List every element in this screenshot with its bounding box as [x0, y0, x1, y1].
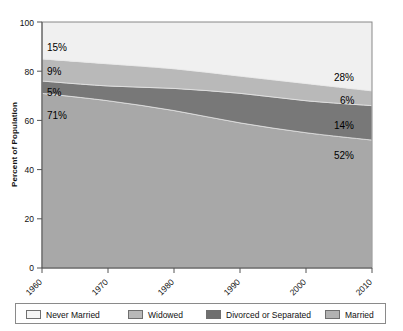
label-right-married: 52%: [334, 150, 354, 161]
area-series-group: [42, 22, 372, 268]
legend-label-married: Married: [345, 310, 374, 320]
stacked-area-chart: Percent of Population 100 80 60 40 20 0: [0, 0, 403, 331]
legend-swatch-married: [325, 310, 340, 319]
legend: Never Married Widowed Divorced or Separa…: [15, 303, 386, 324]
label-right-widowed: 6%: [340, 95, 354, 106]
legend-item-never-married[interactable]: Never Married: [26, 308, 100, 321]
legend-label-widowed: Widowed: [148, 310, 183, 320]
legend-item-married[interactable]: Married: [325, 308, 374, 321]
legend-item-divorced[interactable]: Divorced or Separated: [206, 308, 311, 321]
x-axis: [42, 268, 372, 273]
legend-label-divorced: Divorced or Separated: [226, 310, 311, 320]
label-right-never-married: 28%: [334, 72, 354, 83]
label-right-divorced: 14%: [334, 120, 354, 131]
label-left-widowed: 9%: [47, 66, 61, 77]
legend-item-widowed[interactable]: Widowed: [128, 308, 183, 321]
legend-swatch-divorced: [206, 310, 221, 319]
label-left-never-married: 15%: [47, 42, 67, 53]
y-axis: [37, 22, 42, 268]
label-left-divorced: 5%: [47, 87, 61, 98]
legend-swatch-never-married: [26, 310, 41, 319]
legend-swatch-widowed: [128, 310, 143, 319]
legend-label-never-married: Never Married: [46, 310, 100, 320]
label-left-married: 71%: [47, 110, 67, 121]
